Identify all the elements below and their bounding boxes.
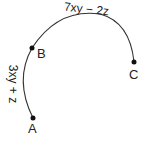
point-c-label: C xyxy=(129,68,138,81)
point-a-label: A xyxy=(28,122,37,135)
point-b-label: B xyxy=(37,47,46,60)
arc-ab-bc xyxy=(23,13,134,118)
arc-ab-label: 3xy + z xyxy=(7,65,19,103)
arc-diagram: A B C 3xy + z 7xy − 2z xyxy=(0,0,148,145)
point-a-dot xyxy=(31,116,36,121)
arc-figure xyxy=(0,0,148,145)
point-c-dot xyxy=(132,60,137,65)
point-b-dot xyxy=(30,46,35,51)
